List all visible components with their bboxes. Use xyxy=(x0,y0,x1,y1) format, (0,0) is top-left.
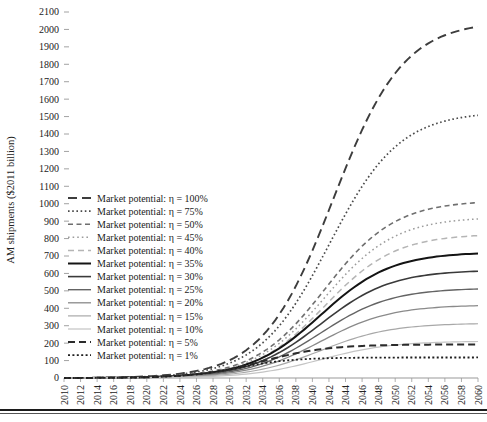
x-tick-label: 2042 xyxy=(324,385,335,405)
x-tick-label: 2022 xyxy=(158,385,169,405)
y-tick-label: 300 xyxy=(44,320,59,331)
legend-label-eta-45: Market potential: η = 45% xyxy=(97,232,203,243)
footer-rule-primary xyxy=(0,409,487,411)
y-tick-label: 1400 xyxy=(39,128,59,139)
y-tick-label: 500 xyxy=(44,285,59,296)
y-tick-label: 1600 xyxy=(39,94,59,105)
y-tick-label: 0 xyxy=(54,372,59,383)
x-tick-label: 2044 xyxy=(340,385,351,405)
y-tick-label: 200 xyxy=(44,338,59,349)
am-shipments-line-chart: 0100200300400500600700800900100011001200… xyxy=(0,0,487,408)
x-tick-label: 2046 xyxy=(357,385,368,405)
y-tick-label: 1200 xyxy=(39,163,59,174)
x-tick-label: 2036 xyxy=(274,385,285,405)
x-tick-label: 2016 xyxy=(108,385,119,405)
x-tick-label: 2012 xyxy=(75,385,86,405)
x-tick-label: 2052 xyxy=(406,385,417,405)
x-tick-label: 2034 xyxy=(257,385,268,405)
y-tick-label: 1100 xyxy=(39,181,59,192)
y-tick-label: 2000 xyxy=(39,24,59,35)
x-tick-label: 2024 xyxy=(175,385,186,405)
y-tick-label: 1800 xyxy=(39,59,59,70)
legend-label-eta-100: Market potential: η = 100% xyxy=(97,193,208,204)
x-axis: 2010201220142016201820202022202420262028… xyxy=(59,378,484,405)
x-tick-label: 2054 xyxy=(423,385,434,405)
y-tick-label: 1300 xyxy=(39,146,59,157)
y-tick-label: 400 xyxy=(44,303,59,314)
chart-legend: Market potential: η = 100%Market potenti… xyxy=(68,193,208,361)
x-tick-label: 2010 xyxy=(59,385,70,405)
chart-figure: 0100200300400500600700800900100011001200… xyxy=(0,0,487,422)
legend-label-eta-50: Market potential: η = 50% xyxy=(97,219,203,230)
legend-label-eta-30: Market potential: η = 30% xyxy=(97,271,203,282)
x-tick-label: 2040 xyxy=(307,385,318,405)
y-axis-title: AM shipments ($2011 billion) xyxy=(5,136,17,264)
x-tick-label: 2032 xyxy=(241,385,252,405)
y-tick-label: 600 xyxy=(44,268,59,279)
x-tick-label: 2056 xyxy=(439,385,450,405)
x-tick-label: 2026 xyxy=(191,385,202,405)
legend-label-eta-40: Market potential: η = 40% xyxy=(97,245,203,256)
legend-label-eta-15: Market potential: η = 15% xyxy=(97,311,203,322)
x-tick-label: 2058 xyxy=(456,385,467,405)
x-tick-label: 2014 xyxy=(92,385,103,405)
y-tick-label: 1900 xyxy=(39,41,59,52)
x-tick-label: 2038 xyxy=(290,385,301,405)
x-tick-label: 2020 xyxy=(141,385,152,405)
legend-label-eta-5: Market potential: η = 5% xyxy=(97,337,198,348)
y-axis: 0100200300400500600700800900100011001200… xyxy=(39,6,69,383)
legend-label-eta-25: Market potential: η = 25% xyxy=(97,284,203,295)
x-tick-label: 2050 xyxy=(390,385,401,405)
y-tick-label: 1500 xyxy=(39,111,59,122)
legend-label-eta-75: Market potential: η = 75% xyxy=(97,206,203,217)
x-tick-label: 2018 xyxy=(125,385,136,405)
legend-label-eta-10: Market potential: η = 10% xyxy=(97,324,203,335)
y-tick-label: 900 xyxy=(44,216,59,227)
legend-label-eta-1: Market potential: η = 1% xyxy=(97,350,198,361)
footer-rule-secondary xyxy=(0,413,487,414)
legend-label-eta-35: Market potential: η = 35% xyxy=(97,258,203,269)
y-tick-label: 1000 xyxy=(39,198,59,209)
x-tick-label: 2028 xyxy=(208,385,219,405)
y-tick-label: 2100 xyxy=(39,6,59,17)
y-tick-label: 1700 xyxy=(39,76,59,87)
y-tick-label: 800 xyxy=(44,233,59,244)
x-tick-label: 2060 xyxy=(473,385,484,405)
y-tick-label: 700 xyxy=(44,250,59,261)
y-tick-label: 100 xyxy=(44,355,59,366)
legend-label-eta-20: Market potential: η = 20% xyxy=(97,297,203,308)
x-tick-label: 2030 xyxy=(224,385,235,405)
x-tick-label: 2048 xyxy=(373,385,384,405)
